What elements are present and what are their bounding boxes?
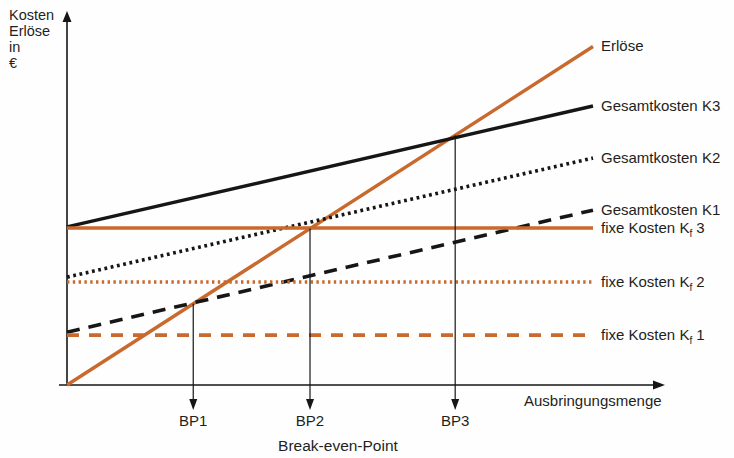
series-line-gesamtkosten-k2	[67, 158, 593, 277]
x-axis-arrowhead-icon	[653, 381, 665, 390]
series-label-text: 2	[692, 273, 705, 290]
series-label-text: Erlöse	[601, 37, 644, 54]
bp-label-bp3: BP3	[433, 412, 477, 429]
bp-label-bp2: BP2	[288, 412, 332, 429]
bp-label-bp1: BP1	[171, 412, 215, 429]
break-even-diagram: Kosten Erlöse in € ErlöseGesamtkosten K3…	[0, 0, 734, 458]
series-line-gesamtkosten-k3	[67, 106, 593, 227]
series-label-fixe-kosten-kf3: fixe Kosten Kf 3	[601, 218, 705, 238]
bp-arrowhead-icon-bp2	[306, 399, 314, 410]
series-label-text: Gesamtkosten K3	[601, 97, 720, 114]
series-lines	[67, 46, 593, 385]
bp-arrowhead-icon-bp1	[189, 399, 197, 410]
series-label-gesamtkosten-k2: Gesamtkosten K2	[601, 148, 720, 168]
series-label-text: 1	[692, 326, 705, 343]
series-label-erl-se: Erlöse	[601, 36, 644, 56]
series-label-fixe-kosten-kf1: fixe Kosten Kf 1	[601, 325, 705, 345]
series-label-text: fixe Kosten K	[601, 273, 689, 290]
series-label-text: fixe Kosten K	[601, 219, 689, 236]
break-even-caption: Break-even-Point	[238, 437, 438, 455]
y-axis-arrowhead-icon	[63, 11, 72, 22]
series-label-gesamtkosten-k3: Gesamtkosten K3	[601, 96, 720, 116]
series-label-fixe-kosten-kf2: fixe Kosten Kf 2	[601, 272, 705, 292]
series-label-text: Gesamtkosten K1	[601, 201, 720, 218]
x-axis-label: Ausbringungsmenge	[524, 392, 662, 409]
series-label-text: fixe Kosten K	[601, 326, 689, 343]
bp-arrowhead-icon-bp3	[451, 399, 459, 410]
series-label-text: Gesamtkosten K2	[601, 149, 720, 166]
series-label-text: 3	[692, 219, 705, 236]
